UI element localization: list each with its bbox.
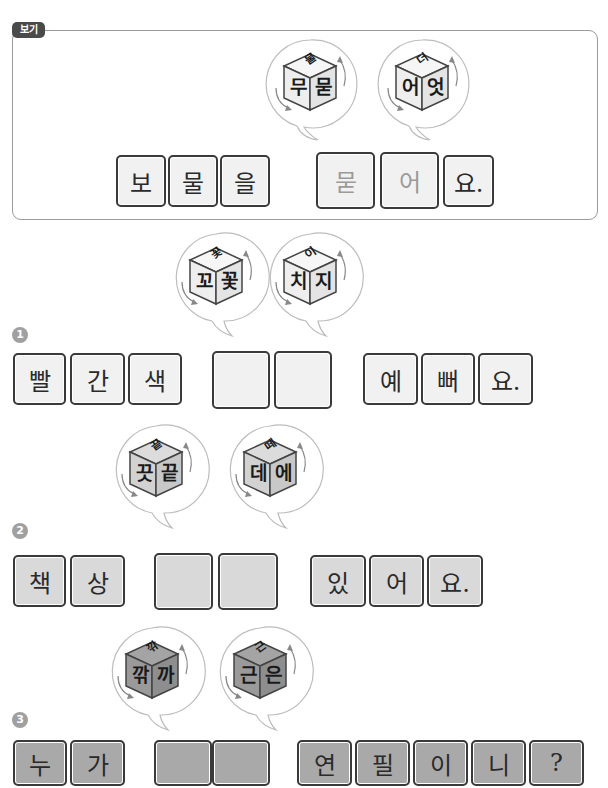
- word-tile: 간: [70, 353, 125, 405]
- word-tile: 요.: [443, 155, 494, 207]
- dice-bubble: 깎 깎 까: [106, 626, 198, 718]
- dice-right-face: 까: [153, 660, 177, 687]
- word-tile: 빨: [13, 353, 66, 405]
- dice-right-face: 묻: [311, 72, 335, 99]
- problem-number: 1: [12, 327, 28, 343]
- word-tile: 상: [70, 555, 125, 607]
- answer-tile: 어: [380, 152, 439, 209]
- dice-left-face: 데: [246, 458, 270, 485]
- blank-tile[interactable]: [218, 553, 278, 610]
- word-tile: 필: [355, 740, 410, 786]
- dice-left-face: 근: [236, 660, 260, 687]
- word-tile: 누: [13, 740, 67, 786]
- word-tile: 연: [297, 740, 352, 786]
- word-tile: 물: [168, 155, 218, 207]
- word-tile: 이: [413, 740, 468, 786]
- dice-bubble: 떼 데 에: [224, 424, 316, 516]
- dice-left-face: 어: [398, 72, 422, 99]
- dice-right-face: 꽃: [217, 266, 241, 293]
- dice-bubble: 끝 끗 끝: [110, 424, 202, 516]
- blank-tile[interactable]: [212, 740, 270, 786]
- dice-right-face: 에: [271, 458, 295, 485]
- word-tile: 니: [471, 740, 526, 786]
- blank-tile[interactable]: [274, 351, 332, 409]
- dice-left-face: 무: [286, 72, 310, 99]
- word-tile: 요.: [478, 353, 533, 405]
- word-tile: 보: [116, 155, 166, 207]
- blank-tile[interactable]: [154, 740, 212, 786]
- dice-bubble: 더 어 엇: [376, 38, 468, 130]
- dice-right-face: 은: [261, 660, 285, 687]
- word-tile: 어: [369, 555, 424, 607]
- example-badge: 보기: [12, 22, 45, 38]
- dice-left-face: 꼬: [192, 266, 216, 293]
- dice-bubble: 이 치 지: [264, 232, 356, 324]
- dice-bubble: 물 무 묻: [264, 38, 356, 130]
- word-tile: 있: [310, 555, 366, 607]
- blank-tile[interactable]: [154, 553, 213, 610]
- word-tile: 을: [220, 155, 270, 207]
- dice-right-face: 지: [311, 266, 335, 293]
- answer-tile: 묻: [316, 152, 375, 209]
- dice-left-face: 끗: [132, 458, 156, 485]
- word-tile: 요.: [427, 555, 483, 607]
- dice-bubble: 꽃 꼬 꽃: [170, 232, 262, 324]
- word-tile: 가: [70, 740, 125, 786]
- dice-bubble: 근 근 은: [214, 626, 306, 718]
- word-tile: 책: [13, 555, 66, 607]
- problem-number: 2: [12, 523, 28, 539]
- dice-right-face: 엇: [423, 72, 447, 99]
- dice-left-face: 치: [286, 266, 310, 293]
- word-tile: 뻐: [421, 353, 475, 405]
- word-tile: ?: [529, 740, 584, 786]
- word-tile: 예: [363, 353, 418, 405]
- dice-left-face: 깎: [128, 660, 152, 687]
- blank-tile[interactable]: [212, 351, 270, 409]
- dice-right-face: 끝: [157, 458, 181, 485]
- problem-number: 3: [12, 712, 28, 728]
- word-tile: 색: [128, 353, 182, 405]
